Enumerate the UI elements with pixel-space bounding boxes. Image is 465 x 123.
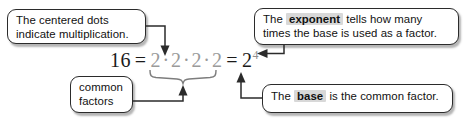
callout-exponent-line1: The exponent tells how many — [263, 13, 451, 27]
connector-exponent-to-superscript — [266, 45, 284, 54]
callout-exponent-keyword: exponent — [286, 13, 343, 25]
equation: 16=2·2·2·2=24 — [110, 50, 259, 70]
callout-exponent-line1-pre: The — [263, 13, 286, 25]
connector-centered-dots-to-dot — [146, 26, 165, 47]
callout-base-text-post: is the common factor. — [326, 90, 439, 102]
equation-result: 16 — [110, 49, 131, 71]
arrowhead-up-to-base — [237, 72, 246, 83]
equation-factor-1: 2 — [151, 49, 161, 71]
callout-centered-dots: The centered dots indicate multiplicatio… — [7, 9, 146, 44]
callout-base-text-pre: The — [271, 90, 294, 102]
equation-dot-3: · — [202, 49, 212, 71]
callout-base: The base is the common factor. — [262, 84, 453, 113]
callout-common-factors-line1: common — [79, 81, 125, 95]
callout-exponent-line2: times the base is used as a factor. — [263, 27, 451, 41]
connector-base-to-base-digit — [241, 82, 262, 98]
callout-exponent: The exponent tells how many times the ba… — [254, 8, 459, 45]
equation-factor-3: 2 — [191, 49, 201, 71]
equation-exponent: 4 — [252, 48, 258, 62]
factor-underbrace — [150, 70, 216, 84]
callout-common-factors: common factors — [70, 76, 133, 113]
equation-equals-2: = — [222, 49, 242, 71]
equation-factor-4: 2 — [212, 49, 222, 71]
equation-factor-2: 2 — [171, 49, 181, 71]
callout-centered-dots-line1: The centered dots — [16, 14, 138, 28]
equation-dot-1: · — [161, 49, 171, 71]
diagram-canvas: The centered dots indicate multiplicatio… — [0, 0, 465, 123]
callout-base-keyword: base — [294, 90, 326, 102]
equation-dot-2: · — [181, 49, 191, 71]
connector-common-factors-to-brace — [133, 94, 183, 101]
callout-common-factors-line2: factors — [79, 95, 125, 109]
callout-exponent-line1-post: tells how many — [343, 13, 422, 25]
equation-base: 2 — [242, 49, 252, 71]
callout-centered-dots-line2: indicate multiplication. — [16, 28, 138, 42]
arrowhead-up-to-brace — [179, 85, 188, 96]
equation-equals-1: = — [131, 49, 151, 71]
callout-base-text: The base is the common factor. — [271, 90, 445, 104]
